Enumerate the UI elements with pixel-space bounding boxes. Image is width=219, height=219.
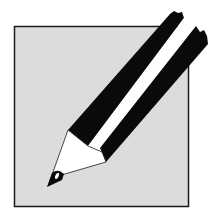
pencil-edit-icon — [0, 0, 219, 219]
